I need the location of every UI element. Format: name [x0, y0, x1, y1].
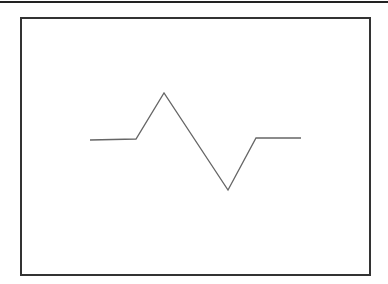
waveform-line: [90, 93, 301, 190]
waveform-canvas: [0, 0, 388, 284]
